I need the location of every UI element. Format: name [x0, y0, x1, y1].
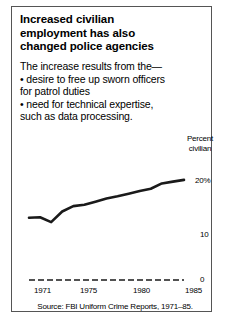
- body-line-1: The increase results from the—: [20, 60, 210, 73]
- body-line-5: such as data processing.: [20, 110, 210, 123]
- chart-svg: [12, 127, 211, 292]
- title-line-2: employment has also: [20, 27, 206, 41]
- body-line-3: for patrol duties: [20, 85, 210, 98]
- body-line-2: • desire to free up sworn officers: [20, 73, 210, 86]
- page-title: Increased civilian employment has also c…: [20, 13, 206, 54]
- line-chart: [12, 127, 211, 292]
- source-note: Source: FBI Uniform Crime Reports, 1971–…: [20, 302, 210, 311]
- body-line-4: • need for technical expertise,: [20, 98, 210, 111]
- title-line-1: Increased civilian: [20, 13, 206, 27]
- title-line-3: changed police agencies: [20, 40, 206, 54]
- body-text: The increase results from the— • desire …: [20, 60, 210, 123]
- data-series-line: [29, 180, 184, 222]
- figure-panel: Increased civilian employment has also c…: [11, 6, 212, 312]
